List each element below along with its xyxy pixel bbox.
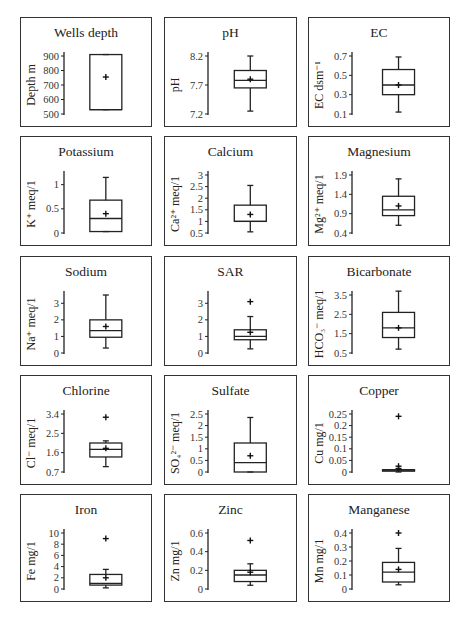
y-tick-label: 600 [43, 94, 59, 105]
boxplot-panel-manganese: Manganese00.10.20.30.4Mn mg/1 [308, 494, 450, 602]
boxplot-panel-zinc: Zinc00.20.40.6Zn mg/1 [164, 494, 297, 602]
y-tick-label: 0.5 [190, 228, 203, 239]
y-tick-label: 2.5 [190, 181, 203, 192]
boxplot-svg: 00.050.10.150.20.25Cu mg/1 [309, 376, 451, 486]
y-tick-label: 2.5 [190, 409, 203, 420]
y-axis-label: SO₄²⁻ meq/1 [168, 412, 182, 474]
y-axis-label: K⁺ meq/1 [24, 180, 38, 228]
y-tick-label: 7.2 [190, 109, 203, 120]
boxplot-panel-wells-depth: Wells depth500600700800900Depth m [20, 17, 152, 127]
y-tick-label: 0.5 [334, 70, 347, 81]
y-tick-label: 700 [43, 80, 59, 91]
y-tick-label: 2 [54, 572, 59, 583]
boxplot-panel-sodium: Sodium0123Na⁺ meq/1 [20, 256, 152, 366]
boxplot-panel-chlorine: Chlorine0.71.62.53.4Cl⁻ meq/1 [20, 375, 152, 485]
y-axis-label: Mn mg/1 [312, 539, 326, 583]
y-tick-label: 1.6 [46, 447, 59, 458]
y-axis-label: pH [168, 77, 182, 92]
y-axis-label: Ca²⁺ meq/1 [168, 176, 182, 232]
y-tick-label: 800 [43, 65, 59, 76]
y-tick-label: 0.3 [334, 89, 347, 100]
y-tick-label: 8.2 [190, 51, 203, 62]
boxplot-panel-sar: SAR0123 [164, 256, 297, 366]
y-tick-label: 3 [198, 298, 203, 309]
y-tick-label: 0 [198, 584, 203, 595]
y-tick-label: 1 [198, 331, 203, 342]
y-tick-label: 3.5 [334, 290, 347, 301]
y-tick-label: 0.2 [334, 556, 347, 567]
y-tick-label: 10 [49, 528, 60, 539]
boxplot-svg: 0.71.62.53.4Cl⁻ meq/1 [21, 376, 153, 486]
y-tick-label: 0.4 [190, 546, 204, 557]
y-tick-label: 0.1 [334, 570, 347, 581]
y-tick-label: 1.9 [334, 170, 347, 181]
boxplot-svg: 00.10.20.30.4Mn mg/1 [309, 495, 451, 603]
y-axis-label: Fe mg/1 [24, 541, 38, 581]
y-tick-label: 8 [54, 539, 59, 550]
boxplot-panel-ec: EC0.10.30.50.7EC dsm⁻¹ [308, 17, 450, 127]
y-tick-label: 0 [54, 348, 59, 359]
y-tick-label: 1.5 [190, 204, 203, 215]
boxplot-svg: 0123 [165, 257, 298, 367]
y-tick-label: 3 [198, 170, 203, 181]
boxplot-svg: 0123Na⁺ meq/1 [21, 257, 153, 367]
y-tick-label: 900 [43, 51, 59, 62]
y-tick-label: 1.5 [190, 432, 203, 443]
y-axis-label: EC dsm⁻¹ [312, 61, 326, 109]
y-tick-label: 1.5 [334, 328, 347, 339]
y-tick-label: 0 [54, 228, 59, 239]
y-tick-label: 3.4 [46, 409, 60, 420]
y-tick-label: 3 [54, 298, 59, 309]
boxplot-svg: 0246810Fe mg/1 [21, 495, 153, 603]
boxplot-svg: 0.51.52.53.5HCO₃⁻ meq/1 [309, 257, 451, 367]
boxplot-panel-iron: Iron0246810Fe mg/1 [20, 494, 152, 602]
y-tick-label: 0.7 [334, 51, 347, 62]
y-tick-label: 0.5 [46, 203, 59, 214]
y-tick-label: 0.1 [334, 443, 347, 454]
boxplot-svg: 0.10.30.50.7EC dsm⁻¹ [309, 18, 451, 128]
y-tick-label: 0.1 [334, 109, 347, 120]
y-tick-label: 0.05 [329, 455, 347, 466]
y-axis-label: Cl⁻ meq/1 [24, 418, 38, 468]
y-axis-label: HCO₃⁻ meq/1 [312, 290, 326, 359]
y-tick-label: 2 [54, 314, 59, 325]
y-tick-label: 1.4 [334, 189, 348, 200]
boxplot-panel-ph: pH7.27.78.2pH [164, 17, 297, 127]
y-tick-label: 0 [54, 584, 59, 595]
y-tick-label: 1 [198, 216, 203, 227]
boxplot-panel-potassium: Potassium00.51K⁺ meq/1 [20, 136, 152, 246]
y-tick-label: 1 [198, 443, 203, 454]
boxplot-svg: 00.51K⁺ meq/1 [21, 137, 153, 247]
boxplot-panel-sulfate: Sulfate00.511.522.5SO₄²⁻ meq/1 [164, 375, 297, 485]
y-tick-label: 0.9 [334, 208, 347, 219]
y-axis-label: Zn mg/1 [168, 541, 182, 582]
boxplot-svg: 00.20.40.6Zn mg/1 [165, 495, 298, 603]
boxplot-svg: 0.40.91.41.9Mg²⁺ meq/1 [309, 137, 451, 247]
y-tick-label: 1 [54, 331, 59, 342]
y-tick-label: 1 [54, 179, 59, 190]
y-tick-label: 0.5 [190, 455, 203, 466]
boxplot-panel-bicarbonate: Bicarbonate0.51.52.53.5HCO₃⁻ meq/1 [308, 256, 450, 366]
y-tick-label: 500 [43, 109, 59, 120]
y-tick-label: 0.15 [329, 432, 347, 443]
boxplot-panel-calcium: Calcium0.511.522.53Ca²⁺ meq/1 [164, 136, 297, 246]
y-tick-label: 0.4 [334, 528, 348, 539]
y-axis-label: Cu mg/1 [312, 422, 326, 464]
y-tick-label: 0.3 [334, 542, 347, 553]
boxplot-panel-magnesium: Magnesium0.40.91.41.9Mg²⁺ meq/1 [308, 136, 450, 246]
y-tick-label: 0.2 [190, 565, 203, 576]
y-tick-label: 2 [198, 193, 203, 204]
y-tick-label: 2.5 [46, 428, 59, 439]
y-tick-label: 2 [198, 420, 203, 431]
y-tick-label: 0.4 [334, 228, 348, 239]
boxplot-svg: 7.27.78.2pH [165, 18, 298, 128]
y-tick-label: 0 [342, 467, 347, 478]
y-tick-label: 0.6 [190, 528, 203, 539]
y-tick-label: 7.7 [190, 80, 203, 91]
y-tick-label: 0 [198, 467, 203, 478]
y-tick-label: 2.5 [334, 309, 347, 320]
boxplot-svg: 0.511.522.53Ca²⁺ meq/1 [165, 137, 298, 247]
boxplot-svg: 500600700800900Depth m [21, 18, 153, 128]
y-tick-label: 4 [54, 561, 60, 572]
y-axis-label: Mg²⁺ meq/1 [312, 174, 326, 233]
